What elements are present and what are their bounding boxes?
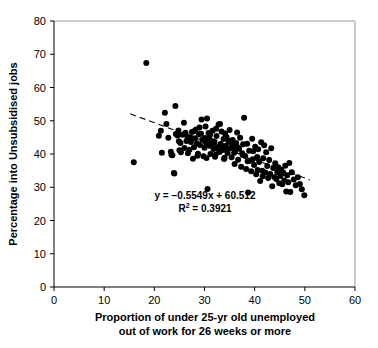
data-point [181, 145, 187, 151]
data-point [234, 129, 240, 135]
data-point [188, 139, 194, 145]
data-point [143, 60, 149, 66]
data-point [263, 149, 269, 155]
data-point [235, 157, 241, 163]
x-axis-title-line2: out of work for 26 weeks or more [119, 325, 291, 337]
data-point [264, 163, 270, 169]
data-point [158, 128, 164, 134]
data-point [224, 148, 230, 154]
data-point [248, 168, 254, 174]
y-tick-label: 70 [34, 48, 46, 60]
data-point [260, 173, 266, 179]
chart-canvas: 01020304050607080 0102030405060 y = −0.5… [0, 0, 378, 348]
data-point [169, 152, 175, 158]
data-point [181, 120, 187, 126]
data-point [198, 116, 204, 122]
data-point [235, 144, 241, 150]
data-point [251, 162, 257, 168]
data-point [210, 140, 216, 146]
data-point [260, 155, 266, 161]
data-point [237, 135, 243, 141]
data-point [287, 189, 293, 195]
data-point [185, 150, 191, 156]
data-point [204, 155, 210, 161]
data-point [162, 110, 168, 116]
data-point [196, 124, 202, 130]
data-point [191, 128, 197, 134]
data-point [171, 171, 177, 177]
data-point [240, 152, 246, 158]
y-tick-label: 80 [34, 15, 46, 27]
x-tick-label: 40 [249, 294, 261, 306]
data-point [203, 123, 209, 129]
data-point [221, 156, 227, 162]
y-axis-tick-labels: 01020304050607080 [34, 15, 46, 293]
data-point [159, 150, 165, 156]
data-point [289, 169, 295, 175]
x-tick-label: 30 [198, 294, 210, 306]
data-point [285, 179, 291, 185]
data-point [222, 130, 228, 136]
data-point [250, 156, 256, 162]
data-point [214, 133, 220, 139]
y-tick-label: 0 [40, 281, 46, 293]
data-point [255, 146, 261, 152]
data-point [163, 121, 169, 127]
data-point [227, 138, 233, 144]
data-point [268, 145, 274, 151]
y-tick-label: 30 [34, 181, 46, 193]
data-point [286, 160, 292, 166]
x-tick-label: 0 [51, 294, 57, 306]
data-point [212, 154, 218, 160]
data-point [241, 115, 247, 121]
y-tick-label: 60 [34, 82, 46, 94]
data-point [269, 183, 275, 189]
data-point [194, 153, 200, 159]
data-point [249, 136, 255, 142]
data-point [299, 186, 305, 192]
y-tick-label: 20 [34, 215, 46, 227]
data-point [301, 192, 307, 198]
x-axis-title-line1: Proportion of under 25-yr old unemployed [95, 311, 315, 323]
scatter-plot-figure: 01020304050607080 0102030405060 y = −0.5… [0, 0, 378, 348]
x-tick-label: 10 [98, 294, 110, 306]
x-tick-label: 50 [299, 294, 311, 306]
data-point [204, 115, 210, 121]
data-point [172, 103, 178, 109]
data-point [229, 144, 235, 150]
y-axis-ticks [50, 21, 54, 287]
data-point [295, 174, 301, 180]
regression-equation-label: y = −0.5549x + 60.512 [155, 190, 256, 201]
data-point [165, 135, 171, 141]
x-axis-ticks [54, 287, 355, 291]
data-point [231, 150, 237, 156]
data-point [297, 181, 303, 187]
y-tick-label: 10 [34, 248, 46, 260]
data-point [244, 141, 250, 147]
r-squared-suffix: = 0.3921 [190, 203, 232, 214]
y-axis-title: Percentage into Unsubsidised jobs [7, 62, 19, 245]
y-tick-label: 40 [34, 148, 46, 160]
data-point [206, 136, 212, 142]
y-tick-label: 50 [34, 115, 46, 127]
x-tick-label: 20 [148, 294, 160, 306]
data-point [176, 138, 182, 144]
data-point [255, 167, 261, 173]
data-point [266, 157, 272, 163]
data-point [217, 121, 223, 127]
data-point [213, 126, 219, 132]
x-axis-tick-labels: 0102030405060 [51, 294, 361, 306]
data-point [261, 142, 267, 148]
data-point [131, 159, 137, 165]
x-tick-label: 60 [349, 294, 361, 306]
